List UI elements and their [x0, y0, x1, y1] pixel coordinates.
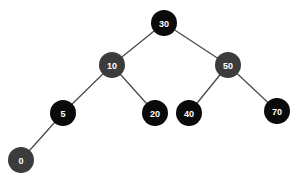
tree-node-70: 70: [264, 98, 290, 124]
node-label: 30: [159, 19, 169, 29]
tree-node-5: 5: [50, 100, 76, 126]
tree-node-30: 30: [151, 10, 177, 36]
node-label: 70: [272, 107, 282, 117]
node-label: 50: [223, 61, 233, 71]
tree-node-20: 20: [142, 100, 168, 126]
node-label: 40: [184, 109, 194, 119]
node-label: 20: [150, 109, 160, 119]
tree-node-0: 0: [8, 147, 34, 173]
node-label: 0: [18, 156, 23, 166]
tree-node-40: 40: [176, 100, 202, 126]
tree-edges: [21, 23, 277, 160]
node-label: 5: [60, 109, 65, 119]
node-label: 10: [107, 61, 117, 71]
tree-node-10: 10: [99, 52, 125, 78]
tree-node-50: 50: [215, 52, 241, 78]
binary-tree-diagram: 30105052040700: [0, 0, 298, 181]
